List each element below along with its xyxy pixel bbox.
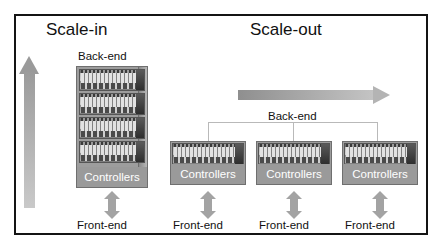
arrow-shaft (376, 198, 384, 212)
arrow-head-right-icon (373, 86, 390, 104)
chassis-lower-bays-icon (81, 155, 136, 161)
diagram-canvas: Scale-in Scale-out Back-end (0, 0, 442, 249)
chassis-endcap-icon (321, 144, 329, 164)
chassis-lower-bays-icon (174, 157, 235, 163)
controllers-label: Controllers (180, 168, 236, 180)
controllers-band: Controllers (343, 164, 417, 184)
scale-out-frontend-arrow-icon (200, 191, 216, 219)
chassis-endcap-icon (136, 118, 144, 138)
scale-out-unit: Controllers (256, 141, 332, 185)
arrow-shaft (238, 90, 374, 100)
server-chassis (172, 143, 244, 165)
controllers-label: Controllers (84, 171, 140, 183)
scale-out-frontend-arrow-icon (286, 191, 302, 219)
chassis-lower-bays-icon (81, 83, 136, 89)
server-chassis (344, 143, 416, 165)
server-chassis (79, 117, 145, 139)
scale-out-unit: Controllers (342, 141, 418, 185)
controllers-label: Controllers (352, 168, 408, 180)
server-chassis (79, 69, 145, 91)
server-chassis (79, 141, 145, 163)
arrow-head-down-icon (286, 211, 302, 219)
controllers-label: Controllers (266, 168, 322, 180)
scale-in-frontend-arrow-icon (104, 191, 120, 219)
chassis-lower-bays-icon (81, 131, 136, 137)
chassis-lower-bays-icon (260, 157, 321, 163)
chassis-endcap-icon (136, 142, 144, 162)
server-chassis (79, 93, 145, 115)
controllers-band: Controllers (171, 164, 245, 184)
chassis-lower-bays-icon (81, 107, 136, 113)
scale-out-title: Scale-out (250, 20, 322, 40)
arrow-head-down-icon (200, 211, 216, 219)
bracket-drop-line (293, 122, 294, 141)
arrow-shaft (290, 198, 298, 212)
chassis-endcap-icon (407, 144, 415, 164)
scale-in-vertical-arrow-icon (19, 56, 39, 208)
arrow-head-down-icon (104, 211, 120, 219)
chassis-endcap-icon (136, 70, 144, 90)
scale-out-horizontal-arrow-icon (238, 86, 390, 104)
arrow-shaft (108, 198, 116, 212)
scale-out-frontend-arrow-icon (372, 191, 388, 219)
chassis-endcap-icon (136, 94, 144, 114)
scale-in-frontend-label: Front-end (77, 219, 127, 231)
arrow-shaft (204, 198, 212, 212)
scale-out-unit: Controllers (170, 141, 246, 185)
scale-in-title: Scale-in (46, 20, 107, 40)
bracket-drop-line (377, 122, 378, 141)
scale-out-frontend-label: Front-end (173, 219, 223, 231)
scale-in-server-rack: Controllers (76, 66, 148, 188)
chassis-endcap-icon (235, 144, 243, 164)
scale-in-backend-label: Back-end (78, 50, 127, 62)
scale-in-controllers-band: Controllers (77, 167, 147, 187)
scale-out-backend-label: Back-end (268, 110, 317, 122)
bracket-drop-line (208, 122, 209, 141)
server-chassis (258, 143, 330, 165)
arrow-head-down-icon (372, 211, 388, 219)
scale-out-frontend-label: Front-end (345, 219, 395, 231)
chassis-lower-bays-icon (346, 157, 407, 163)
arrow-shaft (24, 72, 35, 208)
scale-out-backend-bracket (208, 122, 378, 141)
scale-out-frontend-label: Front-end (259, 219, 309, 231)
controllers-band: Controllers (257, 164, 331, 184)
chassis-stack (79, 69, 145, 165)
